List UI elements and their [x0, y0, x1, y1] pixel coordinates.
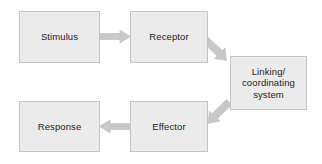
node-linking-label-line2: coordinating — [242, 77, 295, 88]
node-response: Response — [19, 101, 100, 152]
node-linking-label: Linking/ coordinating system — [231, 66, 306, 101]
node-receptor-label: Receptor — [131, 31, 207, 43]
node-effector-label: Effector — [131, 121, 207, 133]
arrow-stimulus-to-receptor — [100, 30, 131, 43]
node-linking-label-line1: Linking/ — [252, 66, 286, 77]
node-effector: Effector — [130, 101, 208, 152]
node-receptor: Receptor — [130, 11, 208, 63]
arrow-effector-to-response — [100, 120, 131, 133]
node-linking-label-line3: system — [253, 89, 284, 100]
node-response-label: Response — [20, 121, 99, 133]
node-linking-coordinating-system: Linking/ coordinating system — [230, 56, 307, 110]
node-stimulus: Stimulus — [19, 11, 100, 63]
diagram-canvas: Stimulus Receptor Linking/ coordinating … — [0, 0, 322, 164]
arrow-linking-to-effector — [208, 100, 232, 124]
node-stimulus-label: Stimulus — [20, 31, 99, 43]
